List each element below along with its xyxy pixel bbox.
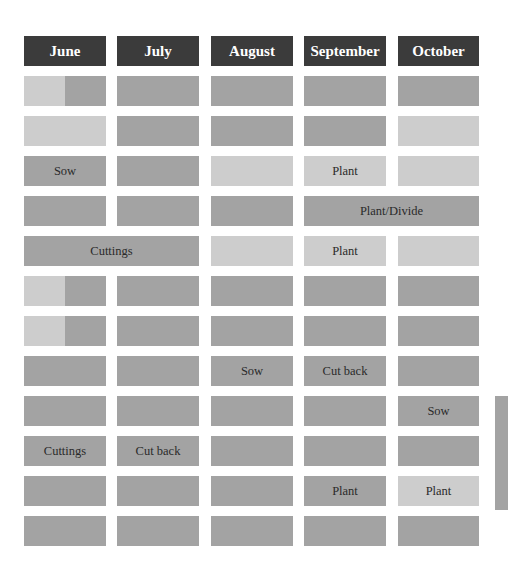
calendar-cell <box>398 276 479 306</box>
calendar-cell <box>211 116 293 146</box>
calendar-cell <box>398 236 479 266</box>
calendar-cell <box>211 476 293 506</box>
calendar-cell <box>398 116 479 146</box>
calendar-cell <box>211 156 293 186</box>
calendar-cell: Sow <box>211 356 293 386</box>
calendar-cell: Plant <box>304 476 386 506</box>
calendar-cell <box>117 516 199 546</box>
calendar-cell <box>117 116 199 146</box>
page-edge-tab <box>495 396 508 510</box>
calendar-cell <box>24 476 106 506</box>
calendar-cell <box>398 356 479 386</box>
calendar-cell: Cuttings <box>24 236 199 266</box>
calendar-cell <box>211 276 293 306</box>
calendar-cell <box>24 316 106 346</box>
calendar-cell <box>24 76 106 106</box>
calendar-cell <box>304 116 386 146</box>
calendar-cell <box>304 516 386 546</box>
calendar-cell: Plant/Divide <box>304 196 479 226</box>
calendar-cell: Sow <box>24 156 106 186</box>
month-header-september: September <box>304 36 386 66</box>
calendar-cell <box>398 316 479 346</box>
month-header-july: July <box>117 36 199 66</box>
calendar-cell: Cut back <box>304 356 386 386</box>
calendar-cell <box>211 196 293 226</box>
calendar-cell <box>117 156 199 186</box>
calendar-cell: Plant <box>304 236 386 266</box>
month-header-october: October <box>398 36 479 66</box>
calendar-cell: Sow <box>398 396 479 426</box>
calendar-cell <box>117 76 199 106</box>
calendar-cell <box>398 516 479 546</box>
calendar-cell: Plant <box>304 156 386 186</box>
calendar-cell <box>211 396 293 426</box>
calendar-cell <box>211 516 293 546</box>
calendar-cell <box>24 516 106 546</box>
calendar-cell <box>117 196 199 226</box>
calendar-cell <box>398 436 479 466</box>
calendar-cell <box>24 276 106 306</box>
calendar-cell <box>304 276 386 306</box>
month-header-august: August <box>211 36 293 66</box>
calendar-cell <box>211 236 293 266</box>
calendar-cell <box>117 276 199 306</box>
calendar-cell <box>211 76 293 106</box>
calendar-cell <box>304 396 386 426</box>
calendar-cell: Plant <box>398 476 479 506</box>
calendar-cell <box>24 116 106 146</box>
calendar-cell: Cuttings <box>24 436 106 466</box>
calendar-cell <box>304 316 386 346</box>
calendar-cell <box>24 356 106 386</box>
calendar-cell <box>304 76 386 106</box>
month-header-june: June <box>24 36 106 66</box>
calendar-cell <box>117 316 199 346</box>
calendar-cell <box>398 156 479 186</box>
calendar-cell <box>24 396 106 426</box>
calendar-cell <box>211 436 293 466</box>
calendar-cell <box>117 356 199 386</box>
calendar-cell <box>211 316 293 346</box>
calendar-cell: Cut back <box>117 436 199 466</box>
calendar-cell <box>304 436 386 466</box>
calendar-cell <box>24 196 106 226</box>
calendar-cell <box>398 76 479 106</box>
calendar-cell <box>117 396 199 426</box>
calendar-cell <box>117 476 199 506</box>
